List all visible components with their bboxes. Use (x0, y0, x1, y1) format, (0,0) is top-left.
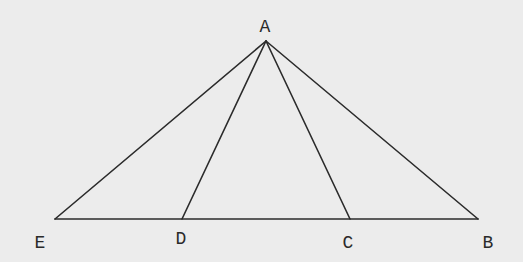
segment-ac (266, 41, 350, 219)
point-label-e: E (35, 233, 46, 253)
triangle-diagram: A E D C B (0, 0, 523, 262)
segment-ad (182, 41, 266, 219)
segment-ab (266, 41, 478, 219)
point-label-a: A (260, 17, 271, 37)
point-label-b: B (483, 233, 494, 253)
point-label-c: C (343, 233, 354, 253)
segment-ae (55, 41, 266, 219)
point-label-d: D (176, 229, 187, 249)
diagram-canvas: A E D C B (0, 0, 523, 262)
